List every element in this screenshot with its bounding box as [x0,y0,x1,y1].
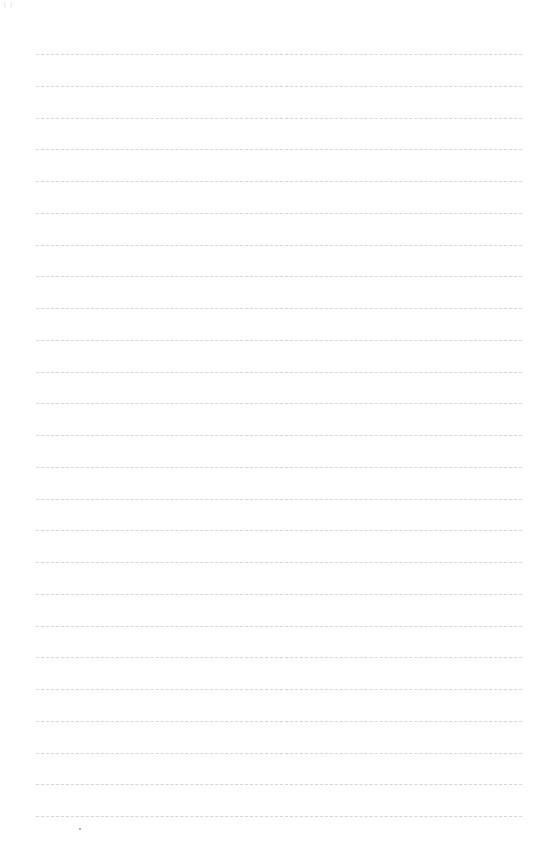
stray-dot-mark [79,828,81,830]
ruled-line [36,372,522,373]
ruled-line [36,816,522,817]
ruled-line [36,213,522,214]
ruled-line [36,499,522,500]
corner-mark [4,2,6,8]
ruled-line [36,626,522,627]
ruled-line [36,118,522,119]
ruled-line [36,86,522,87]
ruled-line [36,753,522,754]
ruled-line [36,594,522,595]
ruled-line [36,689,522,690]
lined-paper-page [0,0,538,862]
ruled-line [36,784,522,785]
ruled-line [36,721,522,722]
corner-mark [10,2,12,8]
ruled-line [36,562,522,563]
ruled-line [36,181,522,182]
ruled-line [36,340,522,341]
ruled-line [36,308,522,309]
ruled-line [36,149,522,150]
ruled-line [36,467,522,468]
ruled-line [36,245,522,246]
ruled-line [36,403,522,404]
ruled-line [36,435,522,436]
ruled-line [36,54,522,55]
ruled-line [36,657,522,658]
ruled-line [36,530,522,531]
ruled-lines [36,0,522,862]
ruled-line [36,276,522,277]
